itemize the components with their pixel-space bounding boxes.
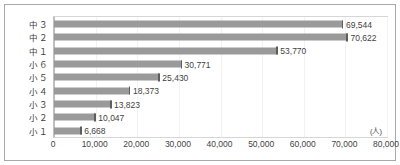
x-tick-label: 70,000	[331, 139, 357, 149]
bar-fill	[54, 74, 160, 81]
bar[interactable]: 10,047	[54, 114, 96, 121]
bar-row: 小５25,430	[54, 71, 387, 84]
bar[interactable]: 53,770	[54, 47, 278, 54]
x-tick-label: 30,000	[165, 139, 191, 149]
category-label: 中１	[29, 45, 48, 57]
bar-value-label: 10,047	[98, 112, 124, 122]
gridline	[387, 17, 388, 137]
bar-value-label: 30,771	[185, 59, 211, 69]
category-label: 小６	[29, 58, 48, 70]
x-tick-label: 10,000	[82, 139, 108, 149]
plot-area: 中３69,544中２70,622中１53,770小６30,771小５25,430…	[53, 16, 388, 138]
bar-value-label: 6,668	[84, 126, 105, 136]
bar-row: 小３13,823	[54, 98, 387, 111]
bar-fill	[54, 127, 82, 134]
bar-row: 中２70,622	[54, 31, 387, 44]
category-label: 小２	[29, 111, 48, 123]
bar[interactable]: 70,622	[54, 34, 348, 41]
bar[interactable]: 30,771	[54, 61, 182, 68]
bar-value-label: 13,823	[114, 99, 140, 109]
x-tick-label: 40,000	[207, 139, 233, 149]
bar-value-label: 25,430	[162, 72, 188, 82]
bar-fill	[54, 34, 348, 41]
category-label: 小１	[29, 125, 48, 137]
bar-value-label: 70,622	[350, 32, 376, 42]
bar-fill	[54, 47, 278, 54]
bar-fill	[54, 114, 96, 121]
bar-value-label: 18,373	[133, 86, 159, 96]
bar[interactable]: 6,668	[54, 127, 82, 134]
bar-row: 中１53,770	[54, 44, 387, 57]
category-label: 中２	[29, 31, 48, 43]
x-axis-tick-labels: 010,00020,00030,00040,00050,00060,00070,…	[53, 139, 388, 153]
x-tick-label: 50,000	[248, 139, 274, 149]
bar-series: 中３69,544中２70,622中１53,770小６30,771小５25,430…	[54, 17, 387, 137]
x-tick-label: 80,000	[373, 139, 399, 149]
bar-row: 小１6,668	[54, 124, 387, 137]
x-tick-label: 60,000	[290, 139, 316, 149]
category-label: 小５	[29, 71, 48, 83]
bar[interactable]: 13,823	[54, 101, 112, 108]
bar-value-label: 69,544	[346, 19, 372, 29]
bar-row: 小４18,373	[54, 84, 387, 97]
bar-row: 小２10,047	[54, 111, 387, 124]
chart-figure: 中３69,544中２70,622中１53,770小６30,771小５25,430…	[0, 0, 400, 165]
bar-fill	[54, 87, 130, 94]
category-label: 小４	[29, 85, 48, 97]
x-tick-label: 0	[51, 139, 56, 149]
bar[interactable]: 25,430	[54, 74, 160, 81]
figure-border: 中３69,544中２70,622中１53,770小６30,771小５25,430…	[4, 4, 396, 161]
category-label: 小３	[29, 98, 48, 110]
category-label: 中３	[29, 18, 48, 30]
bar-fill	[54, 61, 182, 68]
bar-fill	[54, 101, 112, 108]
bar-value-label: 53,770	[280, 46, 306, 56]
bar[interactable]: 18,373	[54, 87, 130, 94]
bar-row: 中３69,544	[54, 18, 387, 31]
bar[interactable]: 69,544	[54, 21, 343, 28]
x-tick-label: 20,000	[123, 139, 149, 149]
bar-row: 小６30,771	[54, 58, 387, 71]
bar-fill	[54, 21, 343, 28]
axis-unit-label: (人)	[370, 125, 382, 136]
